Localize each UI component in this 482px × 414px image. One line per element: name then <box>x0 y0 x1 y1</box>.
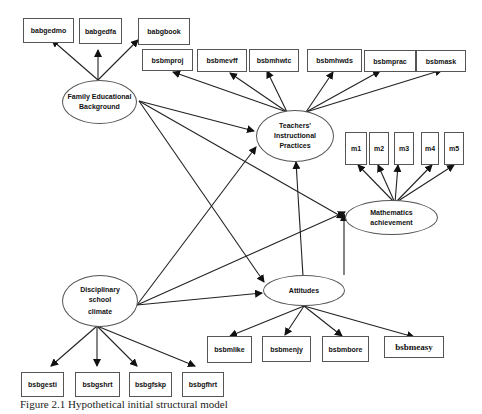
indicator-label: bsbmprac <box>373 58 406 65</box>
construct-disciplinary-school-climate: Disciplinary school climate <box>62 275 138 327</box>
indicator-label: bsbgesti <box>28 381 57 388</box>
indicator-box-bsbmhwtc: bsbmhwtc <box>249 49 299 72</box>
indicator-label: bsbmenjy <box>270 346 303 353</box>
indicator-label: m1 <box>351 145 361 152</box>
indicator-box-bsbmenjy: bsbmenjy <box>262 336 311 362</box>
indicator-box-babgedmo: babgedmo <box>23 18 74 43</box>
indicator-label: bsbgfhrt <box>189 381 217 388</box>
construct-label-line: Background <box>68 102 132 112</box>
construct-label-line: Disciplinary <box>80 285 120 295</box>
indicator-box-m1: m1 <box>345 132 367 165</box>
construct-label-line: Instructional <box>274 131 316 141</box>
indicator-box-bsbmbore: bsbmbore <box>322 336 369 362</box>
sem-diagram: babgedmo babgedfa babgbook bsbmproj bsbm… <box>0 0 482 414</box>
indicator-label: bsbmask <box>426 58 456 65</box>
indicator-label: bsbmlike <box>214 346 244 353</box>
indicator-box-m2: m2 <box>369 132 389 165</box>
construct-attitudes: Attitudes <box>263 275 345 306</box>
indicator-box-bsbmprac: bsbmprac <box>364 50 416 72</box>
indicator-box-bsbmeasy: bsbmeasy <box>384 336 444 358</box>
indicator-box-m4: m4 <box>421 132 439 165</box>
indicator-label: bsbmevff <box>206 57 237 64</box>
indicator-box-babgedfa: babgedfa <box>79 18 122 44</box>
indicator-label: bsbmhwds <box>316 57 353 64</box>
indicator-label: bsbmbore <box>329 346 363 353</box>
construct-label-line: school <box>80 295 120 305</box>
indicator-label: m2 <box>374 145 384 152</box>
indicator-box-m5: m5 <box>444 132 464 165</box>
indicator-box-bsbmlike: bsbmlike <box>207 336 252 363</box>
construct-label-line: Teachers' <box>274 121 316 131</box>
indicator-label: bsbgshrt <box>83 381 113 388</box>
indicator-box-bsbgshrt: bsbgshrt <box>75 372 120 397</box>
indicator-label: bsbmproj <box>152 57 184 64</box>
indicator-box-babgbook: babgbook <box>138 18 190 45</box>
indicator-box-bsbmevff: bsbmevff <box>197 49 247 72</box>
indicator-box-bsbgesti: bsbgesti <box>21 372 64 397</box>
construct-mathematics-achievement: Mathematics achievement <box>345 200 438 235</box>
construct-label-line: achievement <box>370 218 412 228</box>
construct-family-educational-background: Family Educational Background <box>62 80 137 124</box>
indicator-box-bsbgfhrt: bsbgfhrt <box>182 372 224 397</box>
indicator-label: m4 <box>425 145 435 152</box>
construct-label-line: Attitudes <box>289 286 319 296</box>
indicator-box-m3: m3 <box>394 132 414 165</box>
indicator-label: m5 <box>449 145 459 152</box>
indicator-label: m3 <box>399 145 409 152</box>
indicator-box-bsbmproj: bsbmproj <box>142 49 193 71</box>
indicator-label: bsbgfskp <box>135 381 166 388</box>
indicator-label: babgedfa <box>85 28 116 35</box>
indicator-box-bsbgfskp: bsbgfskp <box>129 372 172 397</box>
indicator-label: bsbmeasy <box>395 342 433 352</box>
construct-label-line: Family Educational <box>68 92 132 102</box>
indicator-label: babgbook <box>147 28 180 35</box>
construct-label-line: climate <box>80 307 120 317</box>
construct-label-line: Practices <box>274 141 316 151</box>
indicator-box-bsbmhwds: bsbmhwds <box>307 49 362 72</box>
construct-teachers-instructional-practices: Teachers' Instructional Practices <box>256 110 334 162</box>
figure-caption: Figure 2.1 Hypothetical initial structur… <box>20 398 228 410</box>
construct-label-line: Mathematics <box>370 208 412 218</box>
indicator-box-bsbmask: bsbmask <box>416 50 466 72</box>
indicator-label: babgedmo <box>31 27 66 34</box>
indicator-label: bsbmhwtc <box>257 57 292 64</box>
